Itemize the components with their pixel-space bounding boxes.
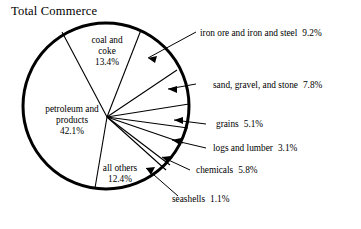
- callout-label-sand-pct: 7.8%: [303, 80, 322, 90]
- callout-label-iron-ore: iron ore and iron and steel9.2%: [200, 28, 322, 39]
- slice-label-all-others-line1: all others: [85, 163, 155, 174]
- callout-label-seashells-name: seashells: [172, 194, 205, 204]
- slice-label-coal-line2: coke: [72, 46, 142, 57]
- callout-label-sand-name: sand, gravel, and stone: [213, 80, 298, 90]
- callout-label-chemicals-pct: 5.8%: [238, 165, 257, 175]
- callout-label-iron-ore-name: iron ore and iron and steel: [200, 28, 297, 38]
- callout-label-seashells: seashells1.1%: [172, 194, 229, 205]
- slice-label-coal-pct: 13.4%: [72, 57, 142, 68]
- slice-label-petroleum: petroleum and products 42.1%: [22, 104, 122, 137]
- slice-label-all-others-pct: 12.4%: [85, 174, 155, 185]
- callout-label-chemicals-name: chemicals: [196, 165, 233, 175]
- callout-label-seashells-pct: 1.1%: [210, 194, 229, 204]
- slice-label-coal-line1: coal and: [72, 35, 142, 46]
- slice-label-petroleum-line2: products: [22, 115, 122, 126]
- callout-label-logs: logs and lumber3.1%: [213, 143, 297, 154]
- slice-label-all-others: all others 12.4%: [85, 163, 155, 185]
- callout-label-sand: sand, gravel, and stone7.8%: [213, 80, 322, 91]
- callout-label-logs-pct: 3.1%: [278, 143, 297, 153]
- slice-label-petroleum-line1: petroleum and: [22, 104, 122, 115]
- callout-label-grains-pct: 5.1%: [244, 119, 263, 129]
- callout-label-grains: grains5.1%: [216, 119, 263, 130]
- callout-label-grains-name: grains: [216, 119, 239, 129]
- slice-label-petroleum-pct: 42.1%: [22, 126, 122, 137]
- callout-label-logs-name: logs and lumber: [213, 143, 273, 153]
- pie-chart-figure: Total Commerce: [0, 0, 361, 229]
- callout-label-iron-ore-pct: 9.2%: [302, 28, 321, 38]
- callout-label-chemicals: chemicals5.8%: [196, 165, 258, 176]
- slice-label-coal: coal and coke 13.4%: [72, 35, 142, 68]
